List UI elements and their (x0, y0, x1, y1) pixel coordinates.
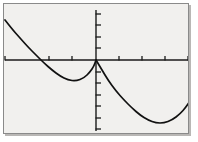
screenshot-root (0, 0, 198, 142)
curve-left-branch (5, 20, 96, 81)
plot-canvas[interactable] (4, 4, 189, 134)
frame-shadow-bottom (5, 134, 191, 136)
axes-group (5, 10, 189, 131)
frame-shadow-right (189, 5, 191, 136)
plot-frame[interactable] (3, 3, 189, 134)
curve-right-branch (96, 60, 189, 123)
